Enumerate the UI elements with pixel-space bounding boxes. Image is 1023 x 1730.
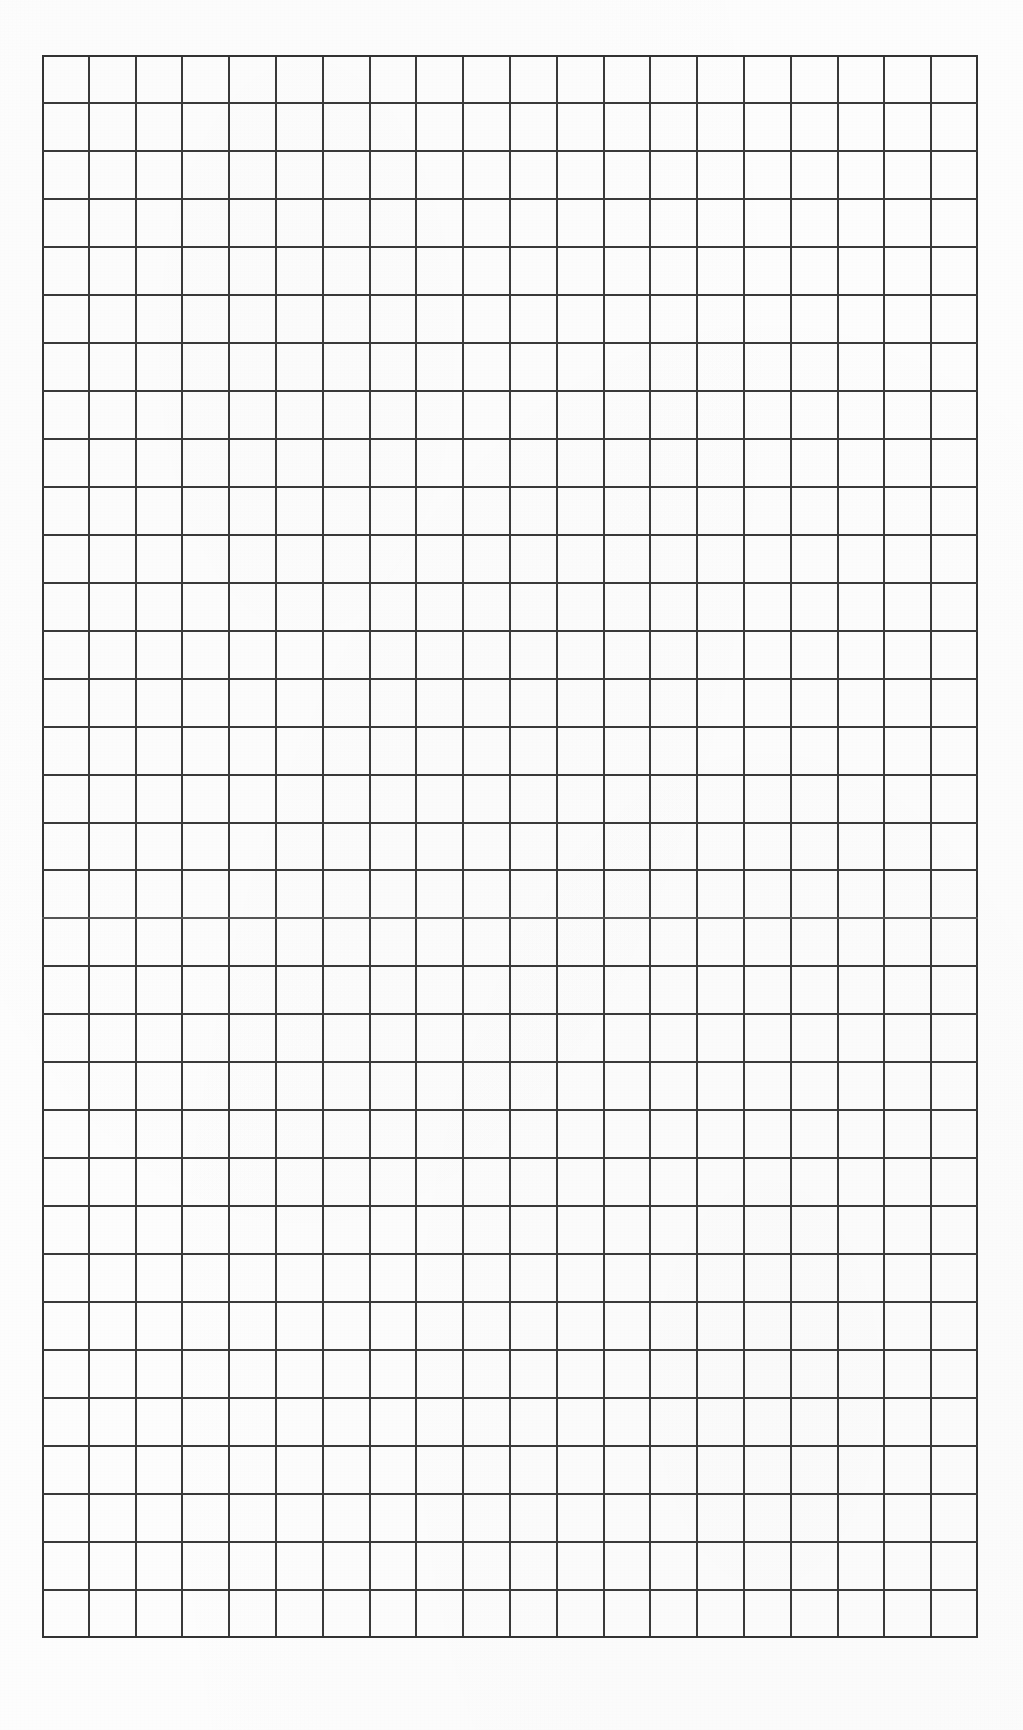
grid-line-vertical	[510, 55, 511, 1638]
grid-svg	[42, 55, 978, 1638]
grid-line-vertical	[744, 55, 745, 1638]
grid-figure	[42, 55, 978, 1638]
grid-line-vertical	[370, 55, 371, 1638]
grid-line-horizontal	[42, 966, 978, 967]
grid-line-horizontal	[42, 1446, 978, 1447]
grid-line-horizontal	[42, 823, 978, 824]
page-canvas	[0, 0, 1023, 1730]
grid-lines	[42, 55, 978, 1638]
grid-line-vertical	[89, 55, 90, 1638]
grid-line-vertical	[463, 55, 464, 1638]
grid-line-horizontal	[42, 727, 978, 728]
